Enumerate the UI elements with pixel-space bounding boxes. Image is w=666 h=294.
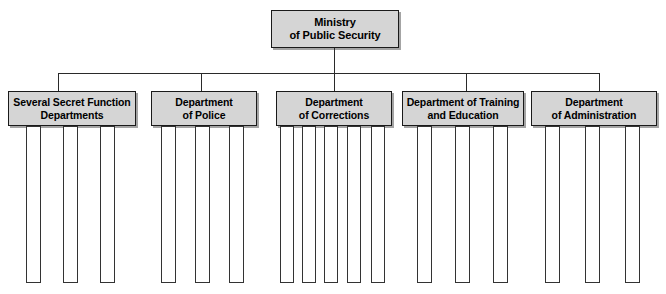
node-department-of-corrections[interactable]: Department of Corrections [276,91,392,126]
leaf-adult-labor-reform-units[interactable]: Adult Labor Reform Units [302,126,316,283]
node-label: Department of Corrections [296,96,372,121]
leaf-special-short-courses[interactable]: Special Short Courses [455,126,470,283]
leaf-personnel[interactable]: Personnel [625,126,640,283]
leaf-finance[interactable]: Finance [545,126,560,283]
connector-drop-secret-function [58,73,59,91]
connector-drop-police [201,73,202,91]
node-ministry-of-public-security[interactable]: Ministry of Public Security [271,10,399,48]
node-label: Department of Administration [549,96,640,121]
node-department-of-police[interactable]: Department of Police [151,91,257,126]
leaf-counter-sabotage[interactable]: Counter Sabotage [26,126,41,283]
node-label: Department of Police [172,96,235,121]
leaf-budget[interactable]: Budget [585,126,600,283]
node-department-of-training-and-education[interactable]: Department of Training and Education [402,91,524,126]
connector-drop-administration [599,73,600,91]
leaf-pretrial-detention-facilities[interactable]: Pretrial Detention Facilities [371,126,385,283]
node-department-of-administration[interactable]: Department of Administration [531,91,657,126]
leaf-traffic-police[interactable]: Traffic Police [195,126,210,283]
node-label: Several Secret Function Departments [10,96,133,121]
leaf-corrections-training-schools[interactable]: Corrections Training Schools [493,126,508,283]
leaf-juvenile-labor-reform-units[interactable]: Juvenile Labor Reform Units [347,126,361,283]
leaf-police-training-schools[interactable]: Police Training Schools [417,126,432,283]
leaf-municipal-police[interactable]: Municipal Police [161,126,176,283]
connector-level2-bus [58,73,599,74]
leaf-counter-espionage[interactable]: Counter Espionage [63,126,78,283]
leaf-counter-revolution[interactable]: Counter Revolution [100,126,115,283]
connector-drop-training-education [466,73,467,91]
node-label: Ministry of Public Security [286,16,383,42]
leaf-juvenile-reformatories[interactable]: Juvenile Reformatories [324,126,338,283]
connector-root-stem [334,48,335,73]
node-several-secret-function-departments[interactable]: Several Secret Function Departments [8,91,136,126]
org-chart: Ministry of Public Security Several Secr… [0,0,666,294]
connector-drop-corrections [334,73,335,91]
node-label: Department of Training and Education [404,96,523,121]
leaf-specialized-police[interactable]: Specialized Police [229,126,244,283]
leaf-adult-prisons[interactable]: Adult Prisons [280,126,294,283]
